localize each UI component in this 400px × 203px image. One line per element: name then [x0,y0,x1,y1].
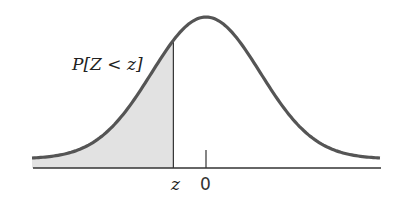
probability-label: P[Z < z] [72,54,143,74]
density-curve [32,17,380,158]
normal-curve-plot [0,0,400,203]
z-tick-label: z [171,174,180,194]
zero-tick-label: 0 [200,174,211,194]
